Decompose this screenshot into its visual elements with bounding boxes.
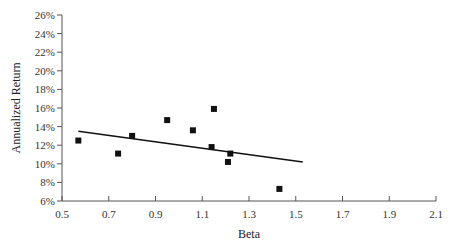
- x-tick-label: 1.9: [382, 208, 396, 220]
- trend-line: [78, 131, 302, 162]
- data-point-marker: [225, 159, 231, 165]
- y-tick-label: 10%: [35, 158, 55, 170]
- data-points: [75, 106, 282, 192]
- x-axis: 0.50.70.91.11.31.51.71.92.1: [55, 196, 443, 220]
- x-tick-label: 0.7: [102, 208, 116, 220]
- x-tick-label: 1.3: [242, 208, 256, 220]
- x-tick-label: 0.5: [55, 208, 69, 220]
- data-point-marker: [227, 151, 233, 157]
- y-tick-label: 20%: [35, 65, 55, 77]
- x-tick-label: 1.7: [336, 208, 350, 220]
- data-point-marker: [129, 133, 135, 139]
- y-tick-label: 6%: [40, 195, 55, 207]
- data-point-marker: [276, 186, 282, 192]
- data-point-marker: [75, 138, 81, 144]
- x-tick-label: 1.5: [289, 208, 303, 220]
- data-point-marker: [115, 151, 121, 157]
- y-tick-label: 18%: [35, 83, 55, 95]
- y-tick-label: 22%: [35, 46, 55, 58]
- y-tick-label: 12%: [35, 139, 55, 151]
- x-axis-title: Beta: [238, 227, 261, 241]
- y-tick-label: 8%: [40, 176, 55, 188]
- x-tick-label: 1.1: [195, 208, 209, 220]
- y-axis-title: Annualized Return: [9, 63, 23, 154]
- y-tick-label: 26%: [35, 9, 55, 21]
- data-point-marker: [209, 144, 215, 150]
- data-point-marker: [190, 127, 196, 133]
- y-tick-label: 24%: [35, 28, 55, 40]
- x-tick-label: 2.1: [429, 208, 443, 220]
- scatter-chart: 6%8%10%12%14%16%18%20%22%24%26% 0.50.70.…: [0, 0, 454, 246]
- x-tick-label: 0.9: [149, 208, 163, 220]
- data-point-marker: [164, 117, 170, 123]
- y-axis: 6%8%10%12%14%16%18%20%22%24%26%: [35, 9, 62, 207]
- y-tick-label: 14%: [35, 121, 55, 133]
- y-tick-label: 16%: [35, 102, 55, 114]
- data-point-marker: [211, 106, 217, 112]
